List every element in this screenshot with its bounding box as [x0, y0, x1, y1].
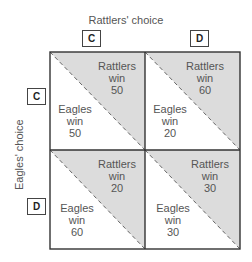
cell-dc-rattlers: Rattlerswin20 — [92, 158, 142, 194]
cell-dd-eagles: Eagleswin30 — [153, 202, 193, 238]
payoff-grid — [0, 0, 252, 262]
cell-dc-eagles: Eagleswin60 — [57, 202, 97, 238]
cell-dd-rattlers: Rattlerswin30 — [185, 158, 235, 194]
cell-cd-rattlers: Rattlerswin60 — [180, 60, 230, 96]
cell-cd-eagles: Eagleswin20 — [150, 103, 190, 139]
cell-cc-eagles: Eagleswin50 — [55, 103, 95, 139]
cell-cc-rattlers: Rattlerswin50 — [92, 60, 142, 96]
